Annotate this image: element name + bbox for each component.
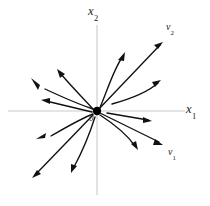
arrowhead-icon xyxy=(41,98,50,104)
axis-label-x2-base: x xyxy=(88,4,94,18)
axis-label-x2-subscript: 2 xyxy=(94,13,98,23)
eigenvector-label-v2: v2 xyxy=(166,22,174,35)
arrowhead-icon xyxy=(118,52,125,61)
origin-label: 0 xyxy=(89,114,94,123)
trajectory-right-horizontal xyxy=(107,113,152,123)
axis-label-x1-base: x xyxy=(186,102,192,116)
phase-portrait-figure: x2 x1 v2 v1 0 xyxy=(0,0,210,206)
arrowhead-icon xyxy=(32,170,41,178)
axis-label-x2: x2 xyxy=(88,5,98,20)
axis-label-x1-subscript: 1 xyxy=(192,111,196,121)
trajectory-lower-left-shallow xyxy=(36,114,93,139)
axis-label-x1: x1 xyxy=(186,103,196,118)
origin-point xyxy=(93,107,101,115)
arrowhead-icon xyxy=(36,133,46,139)
eigenvector-label-v2-subscript: 2 xyxy=(170,29,174,37)
arrowhead-icon xyxy=(31,78,40,90)
trajectory-lower-right-steep xyxy=(100,115,138,150)
arrowhead-icon xyxy=(143,117,152,123)
arrowhead-icon xyxy=(154,42,163,49)
eigenvector-label-v1-subscript: 1 xyxy=(172,154,176,162)
trajectory-upper-left-steep xyxy=(57,69,93,109)
trajectory-v2-outward xyxy=(97,42,163,111)
eigenvector-label-v1: v1 xyxy=(168,147,176,160)
phase-portrait-canvas xyxy=(0,0,210,206)
trajectory-upper-right-shallow xyxy=(112,80,161,104)
arrowhead-icon xyxy=(71,164,77,173)
